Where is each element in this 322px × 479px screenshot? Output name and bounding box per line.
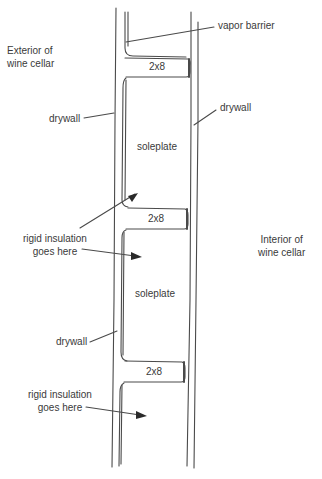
arrowhead-bottom [136, 411, 147, 419]
insulation-top-line-2: goes here [23, 245, 87, 258]
leader-drywall-right [194, 110, 216, 125]
leader-vapor-barrier [126, 27, 214, 42]
arrowhead-top [128, 193, 138, 202]
drywall-right-label: drywall [220, 101, 251, 114]
arrow-insulation-mid-line [82, 249, 135, 256]
interior-label-line-2: wine cellar [258, 246, 305, 259]
drywall-right-line [194, 22, 198, 468]
board-3-label: 2x8 [124, 366, 184, 378]
exterior-label: Exterior of wine cellar [7, 44, 54, 70]
exterior-label-line-2: wine cellar [7, 57, 54, 70]
exterior-label-line-1: Exterior of [7, 44, 54, 57]
inner-right-line [187, 12, 191, 466]
insulation-bottom-line-2: goes here [28, 401, 92, 414]
cavity-2-label: soleplate [124, 288, 186, 300]
drywall-left-bottom-label: drywall [56, 335, 87, 348]
board-1-label: 2x8 [126, 61, 188, 73]
interior-label: Interior of wine cellar [258, 233, 305, 259]
insulation-bottom-label: rigid insulation goes here [28, 388, 92, 414]
leader-drywall-left-top [84, 113, 114, 118]
interior-label-line-1: Interior of [258, 233, 305, 246]
leader-drywall-left-bottom [90, 331, 117, 342]
drywall-left-top-label: drywall [49, 112, 80, 125]
cavity-1-label: soleplate [126, 141, 188, 153]
insulation-bottom-line-1: rigid insulation [28, 388, 92, 401]
insulation-top-line-1: rigid insulation [23, 232, 87, 245]
board-2-label: 2x8 [126, 213, 186, 225]
arrowhead-mid [131, 252, 142, 260]
drywall-left-line [112, 8, 116, 467]
insulation-top-label: rigid insulation goes here [23, 232, 87, 258]
vapor-barrier-line [125, 12, 186, 57]
vapor-barrier-label: vapor barrier [218, 19, 275, 32]
wall-section-diagram: Exterior of wine cellar Interior of wine… [0, 0, 322, 479]
